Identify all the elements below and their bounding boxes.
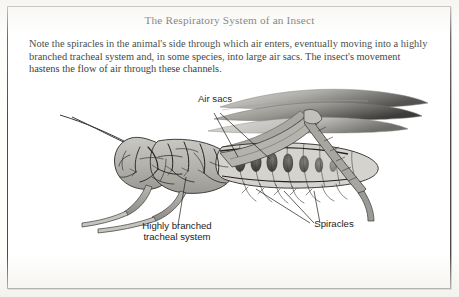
hind-tarsus: [358, 191, 374, 221]
insect-diagram: [8, 7, 452, 290]
label-air-sacs: Air sacs: [178, 93, 252, 104]
antennae-group: [60, 115, 128, 144]
label-spiracles: Spiracles: [298, 218, 370, 229]
figure-page: The Respiratory System of an Insect Note…: [0, 0, 459, 297]
front-leg: [124, 185, 152, 215]
label-tracheal-system: Highly branched tracheal system: [118, 220, 236, 242]
antenna-right: [72, 117, 128, 144]
